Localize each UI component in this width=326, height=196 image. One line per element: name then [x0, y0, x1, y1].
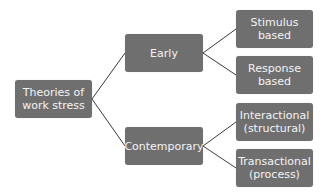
node-label: Interactional (structural) [240, 109, 309, 135]
node-early: Early [125, 34, 203, 72]
node-interactional: Interactional (structural) [236, 103, 313, 141]
node-label: Response based [248, 62, 301, 88]
node-theories-of-work-stress: Theories of work stress [15, 80, 92, 118]
node-label: Contemporary [124, 140, 203, 153]
connector-contemporary-transactional [203, 146, 236, 168]
node-response-based: Response based [236, 56, 313, 94]
node-stimulus-based: Stimulus based [236, 10, 313, 48]
connector-root-contemporary [92, 99, 125, 146]
connector-early-stimulus [203, 29, 236, 53]
node-transactional: Transactional (process) [236, 149, 313, 187]
node-label: Transactional (process) [238, 155, 311, 181]
connector-root-early [92, 53, 125, 99]
node-label: Early [150, 47, 178, 60]
connector-contemporary-interactional [203, 122, 236, 146]
connector-early-response [203, 53, 236, 75]
node-label: Stimulus based [251, 16, 299, 42]
node-contemporary: Contemporary [125, 127, 203, 165]
node-label: Theories of work stress [22, 86, 85, 112]
